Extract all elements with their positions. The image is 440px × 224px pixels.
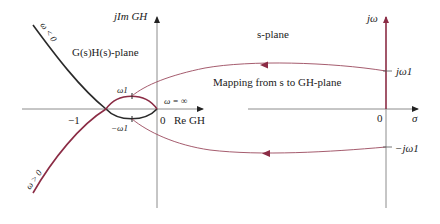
omega1-label: ω1 xyxy=(117,85,128,95)
mapping-arrowhead-upper xyxy=(260,62,268,69)
mapping-arc-lower xyxy=(132,119,386,153)
omega-infinity-label: ω = ∞ xyxy=(164,96,187,106)
sigma-axis-label: σ xyxy=(412,112,418,124)
nyquist-mapping-diagram: jIm GH G(s)H(s)-plane −1 0 Re GH ω = ∞ ω… xyxy=(0,0,440,224)
s-tick-zero: 0 xyxy=(377,112,383,124)
jomega-axis-label: jω xyxy=(365,12,378,24)
omega-negative-branch xyxy=(33,25,106,109)
neg-omega1-label: −ω1 xyxy=(111,123,128,133)
mapping-arrowhead-lower xyxy=(262,150,270,157)
s-plane: jω s-plane jω1 0 σ −jω1 xyxy=(248,12,419,208)
omega-negative-label: ω < 0 xyxy=(38,20,59,44)
gh-imag-axis-label: jIm GH xyxy=(112,10,148,22)
gh-plane-title: G(s)H(s)-plane xyxy=(72,46,139,59)
tick-minus-one: −1 xyxy=(68,114,80,126)
s-plane-title: s-plane xyxy=(257,28,289,40)
mapping-label: Mapping from s to GH-plane xyxy=(213,76,341,88)
gh-tick-zero: 0 xyxy=(160,114,166,126)
j-omega1-label: jω1 xyxy=(394,65,412,77)
gh-real-axis-label: Re GH xyxy=(174,114,205,126)
gh-plane: jIm GH G(s)H(s)-plane −1 0 Re GH ω = ∞ ω… xyxy=(22,10,205,208)
neg-j-omega1-label: −jω1 xyxy=(395,142,419,154)
